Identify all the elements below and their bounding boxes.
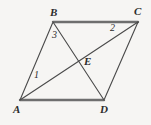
angle-label-2: 2 [110,23,115,33]
angle-label-3: 3 [52,30,57,40]
side-AB [20,22,53,100]
vertex-label-C: C [134,6,141,17]
angle-label-1: 1 [34,70,39,80]
vertex-label-B: B [50,7,57,18]
vertex-label-A: A [13,104,20,115]
figure-canvas [0,0,151,125]
geometry-figure: A B C D E 1 2 3 [0,0,151,125]
vertex-label-D: D [100,104,108,115]
diagonal-BD [53,22,104,100]
vertex-label-E: E [84,56,91,67]
